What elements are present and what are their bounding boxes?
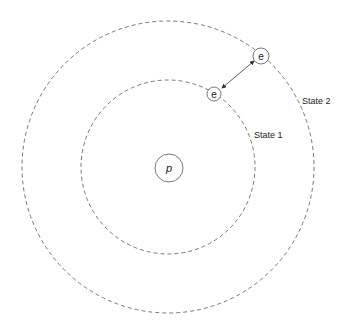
- state-1-label: State 1: [254, 130, 283, 140]
- electron-inner-label: e: [211, 89, 217, 100]
- state-2-label: State 2: [302, 96, 331, 106]
- atom-diagram: p e e State 1 State 2: [0, 0, 348, 333]
- electron-inner: e: [207, 87, 221, 101]
- electron-outer: e: [253, 48, 269, 64]
- nucleus: p: [155, 154, 183, 182]
- transition-arrow: [222, 61, 254, 88]
- nucleus-label: p: [165, 162, 172, 174]
- electron-outer-label: e: [258, 51, 264, 62]
